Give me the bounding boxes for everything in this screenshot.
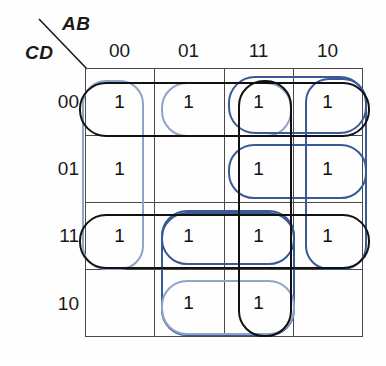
gridline-horizontal-4 <box>85 336 363 337</box>
cell-01-11: 1 <box>224 135 293 202</box>
cell-00-00: 1 <box>85 68 154 135</box>
column-header-0: 00 <box>85 40 154 62</box>
cell-11-01: 1 <box>154 202 223 269</box>
row-header-0: 00 <box>35 91 79 113</box>
kmap-grid: 1 1 1 1 1 1 1 1 1 1 1 1 1 <box>85 68 363 337</box>
cell-11-10: 1 <box>293 202 362 269</box>
axis-label-cd: CD <box>25 42 53 64</box>
cell-00-11: 1 <box>224 68 293 135</box>
karnaugh-map: AB CD 00 01 11 10 00 01 11 10 <box>0 0 386 366</box>
cell-00-01: 1 <box>154 68 223 135</box>
column-header-1: 01 <box>154 40 223 62</box>
cell-00-10: 1 <box>293 68 362 135</box>
cell-01-00: 1 <box>85 135 154 202</box>
cell-10-00 <box>85 269 154 336</box>
cell-10-11: 1 <box>224 269 293 336</box>
row-header-2: 11 <box>35 225 79 247</box>
cell-01-10: 1 <box>293 135 362 202</box>
cell-11-11: 1 <box>224 202 293 269</box>
cell-10-10 <box>293 269 362 336</box>
cell-01-01 <box>154 135 223 202</box>
axis-label-ab: AB <box>62 13 90 35</box>
column-header-3: 10 <box>293 40 362 62</box>
cell-10-01: 1 <box>154 269 223 336</box>
row-header-1: 01 <box>35 158 79 180</box>
row-header-3: 10 <box>35 293 79 315</box>
column-header-2: 11 <box>224 40 293 62</box>
cell-11-00: 1 <box>85 202 154 269</box>
